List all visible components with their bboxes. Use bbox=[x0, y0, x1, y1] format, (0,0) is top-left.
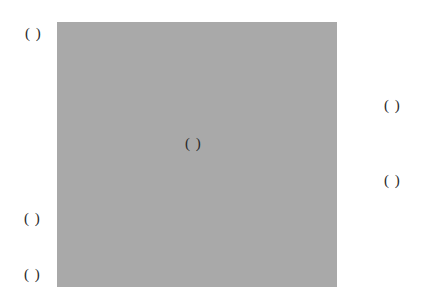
label-right-upper: ( ) bbox=[384, 96, 401, 114]
label-left-lower-upper: ( ) bbox=[24, 209, 41, 227]
label-right-lower: ( ) bbox=[384, 171, 401, 189]
label-left-lower-bottom: ( ) bbox=[24, 265, 41, 283]
label-center: ( ) bbox=[185, 134, 202, 152]
gray-panel bbox=[57, 22, 337, 287]
label-top-left: ( ) bbox=[25, 24, 42, 42]
